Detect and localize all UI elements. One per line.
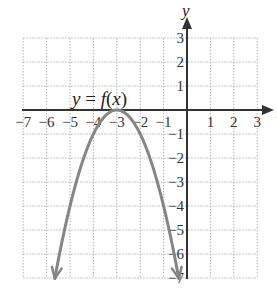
function-label-close: ) bbox=[121, 88, 127, 110]
y-tick-label: −4 bbox=[168, 198, 184, 214]
graph: −7−6−5−4−3−2−1123321−1−2−3−4−5−6−7 y x y… bbox=[0, 0, 277, 292]
x-tick-label: −3 bbox=[109, 114, 125, 130]
x-tick-label: 1 bbox=[207, 114, 215, 130]
function-label-eq: = bbox=[80, 88, 100, 109]
y-tick-label: −1 bbox=[168, 126, 184, 142]
y-tick-label: 1 bbox=[177, 78, 185, 94]
x-tick-label: 2 bbox=[230, 114, 238, 130]
y-tick-label: 2 bbox=[177, 54, 185, 70]
axes bbox=[22, 17, 274, 279]
y-axis-label: y bbox=[180, 1, 190, 20]
x-tick-label: 3 bbox=[253, 114, 261, 130]
x-axis-label: x bbox=[276, 103, 277, 122]
x-tick-label: −6 bbox=[39, 114, 55, 130]
x-tick-label: −5 bbox=[62, 114, 78, 130]
grid bbox=[23, 38, 257, 278]
function-label-y: y bbox=[70, 88, 81, 109]
x-axis-arrow-icon bbox=[262, 105, 274, 115]
function-label: y = f(x) bbox=[70, 88, 127, 110]
y-tick-label: 3 bbox=[177, 30, 185, 46]
x-tick-label: −7 bbox=[15, 114, 31, 130]
y-tick-label: −3 bbox=[168, 174, 184, 190]
y-tick-label: −2 bbox=[168, 150, 184, 166]
